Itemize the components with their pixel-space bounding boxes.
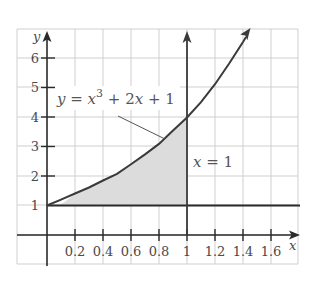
y-tick-label: 6 bbox=[31, 51, 39, 66]
y-tick-label: 5 bbox=[31, 80, 39, 95]
x-tick-label: 1.2 bbox=[205, 244, 226, 259]
y-tick-label: 3 bbox=[31, 139, 39, 154]
y-axis bbox=[41, 31, 55, 266]
x-tick-label: 0.6 bbox=[121, 244, 142, 259]
x-axis-label: x bbox=[289, 238, 297, 253]
label-leader-line bbox=[118, 116, 165, 139]
eq-plus-2: + 2 bbox=[103, 90, 135, 108]
area-between-curves-chart: y = x3 + 2x + 1 x = 1 y x 1 2 3 4 5 6 0.… bbox=[0, 0, 318, 283]
y-tick-labels: 1 2 3 4 5 6 bbox=[31, 51, 39, 213]
curve-equation-label: y = x3 + 2x + 1 bbox=[56, 87, 175, 108]
y-tick-label: 2 bbox=[31, 169, 39, 184]
x-tick-label: 0.2 bbox=[65, 244, 86, 259]
y-axis-label: y bbox=[32, 29, 41, 44]
y-tick-label: 1 bbox=[31, 198, 39, 213]
vline-rest: = 1 bbox=[201, 153, 233, 171]
x-tick-labels: 0.2 0.4 0.6 0.8 1 1.2 1.4 1.6 bbox=[65, 244, 282, 259]
x-axis bbox=[17, 229, 300, 241]
x-tick-label: 1 bbox=[183, 244, 191, 259]
shaded-region bbox=[47, 118, 187, 206]
eq-equals: = bbox=[65, 90, 87, 108]
eq-exponent: 3 bbox=[96, 87, 103, 100]
vline-equation-label: x = 1 bbox=[193, 153, 233, 171]
x-tick-label: 1.4 bbox=[233, 244, 254, 259]
x-tick-label: 0.8 bbox=[149, 244, 170, 259]
x-tick-label: 0.4 bbox=[93, 244, 114, 259]
x-tick-label: 1.6 bbox=[261, 244, 282, 259]
eq-plus-1: + 1 bbox=[143, 90, 175, 108]
y-tick-label: 4 bbox=[31, 110, 39, 125]
